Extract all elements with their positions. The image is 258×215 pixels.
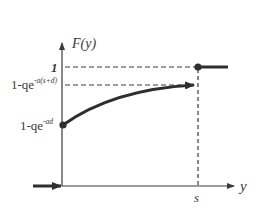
y-label-lower-exp: -ad: [43, 117, 53, 126]
y-label-upper: 1-qe-a(s+d): [11, 76, 58, 92]
cdf-curve: [63, 85, 194, 125]
y-axis-label: F(y): [71, 36, 96, 52]
y-label-lower: 1-qe-ad: [20, 117, 53, 133]
cdf-diagram: F(y) y s 1 1-qe-a(s+d) 1-qe-ad: [0, 0, 258, 215]
y-label-lower-base: 1-qe: [20, 118, 43, 133]
jump-point: [194, 63, 201, 70]
x-tick-s: s: [194, 190, 199, 205]
x-axis-label: y: [238, 178, 247, 194]
y-label-upper-exp: -a(s+d): [34, 76, 57, 85]
y-label-one: 1: [51, 60, 58, 75]
y-label-upper-base: 1-qe: [11, 77, 34, 92]
start-point: [59, 121, 66, 128]
